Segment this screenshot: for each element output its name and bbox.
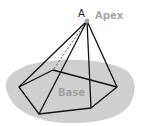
apex-letter-label: A <box>78 8 85 19</box>
pyramid-diagram: A Apex Base <box>0 0 141 126</box>
apex-point <box>85 19 90 24</box>
base-label: Base <box>58 87 85 98</box>
apex-label: Apex <box>95 10 124 21</box>
